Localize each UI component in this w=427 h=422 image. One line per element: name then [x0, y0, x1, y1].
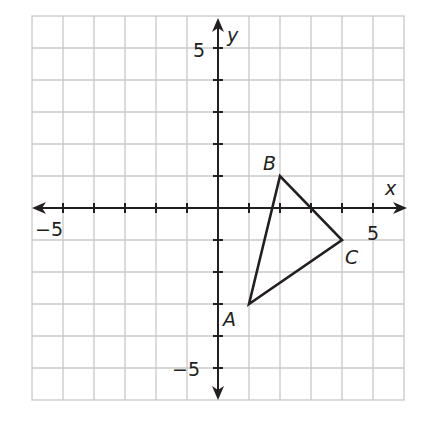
x-neg-tick-label: −5 [35, 218, 63, 240]
x-axis [32, 202, 407, 214]
point-label-c: C [345, 246, 359, 268]
y-pos-tick-label: 5 [193, 39, 205, 61]
point-label-b: B [263, 152, 276, 174]
y-neg-tick-label: −5 [172, 358, 200, 380]
coordinate-plane: x y −5 5 5 −5 A B C [0, 0, 427, 422]
point-label-a: A [221, 308, 236, 330]
x-axis-label: x [384, 177, 397, 199]
y-axis-label: y [226, 24, 239, 46]
x-pos-tick-label: 5 [367, 222, 379, 244]
